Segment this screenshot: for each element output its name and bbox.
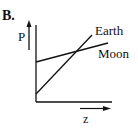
x-arrowhead-icon <box>103 106 111 111</box>
y-arrowhead-icon <box>27 20 32 27</box>
x-axis-label: z <box>83 112 88 126</box>
pressure-depth-graph: B. P z Earth Moon <box>0 0 138 131</box>
earth-line <box>36 35 92 94</box>
panel-label: B. <box>2 8 15 23</box>
earth-label: Earth <box>95 23 124 38</box>
y-axis-label: P <box>18 29 25 44</box>
diagram-panel: B. P z Earth Moon <box>0 0 138 131</box>
moon-label: Moon <box>98 46 130 61</box>
